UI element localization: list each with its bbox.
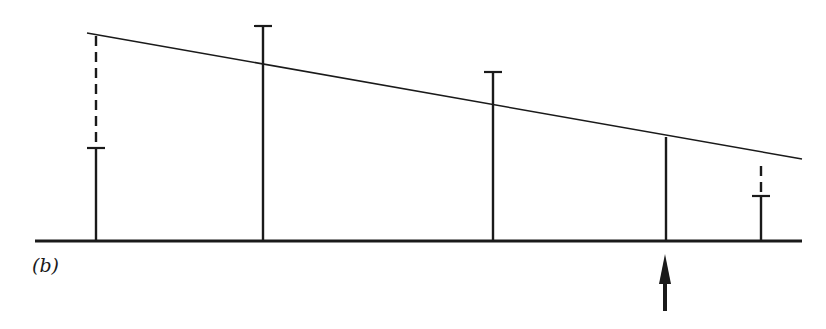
- diagram-canvas: [0, 0, 826, 329]
- figure-label: (b): [32, 254, 59, 276]
- sloped-line: [87, 33, 802, 159]
- arrow-up-icon: [659, 254, 671, 284]
